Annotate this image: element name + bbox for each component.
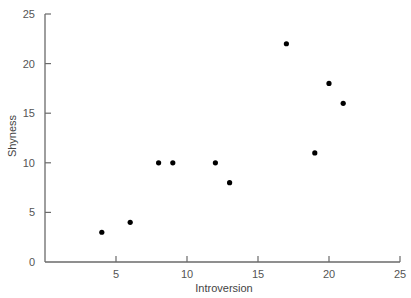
data-point — [170, 160, 175, 165]
x-tick-label: 25 — [394, 268, 406, 280]
data-point — [156, 160, 161, 165]
data-point — [99, 230, 104, 235]
x-axis-title: Introversion — [195, 282, 252, 294]
data-points — [99, 41, 346, 235]
y-axis-title: Shyness — [6, 114, 18, 157]
data-point — [128, 220, 133, 225]
scatter-plot: 0510152025 510152025 Introversion Shynes… — [0, 0, 411, 298]
data-point — [312, 150, 317, 155]
data-point — [227, 180, 232, 185]
y-axis-ticks: 0510152025 — [23, 8, 51, 268]
data-point — [326, 81, 331, 86]
y-tick-label: 25 — [23, 8, 35, 20]
x-tick-label: 15 — [252, 268, 264, 280]
data-point — [213, 160, 218, 165]
data-point — [341, 101, 346, 106]
y-tick-label: 20 — [23, 58, 35, 70]
axes — [45, 14, 400, 262]
x-tick-label: 20 — [323, 268, 335, 280]
x-tick-label: 10 — [181, 268, 193, 280]
y-tick-label: 0 — [29, 256, 35, 268]
x-axis-ticks: 510152025 — [113, 256, 406, 280]
y-tick-label: 10 — [23, 157, 35, 169]
x-tick-label: 5 — [113, 268, 119, 280]
y-tick-label: 15 — [23, 107, 35, 119]
y-tick-label: 5 — [29, 206, 35, 218]
data-point — [284, 41, 289, 46]
